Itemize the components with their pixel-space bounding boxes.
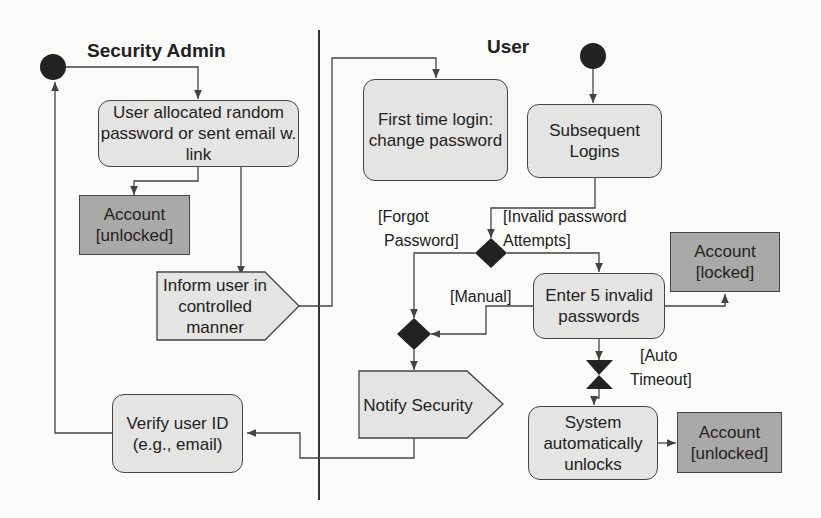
object-account-unlocked-user[interactable]: Account [unlocked] — [677, 412, 782, 473]
signal-notify-security[interactable]: Notify Security — [362, 372, 474, 438]
guard-invalid-line2: Attempts] — [503, 231, 571, 250]
activity-system-unlocks[interactable]: System automatically unlocks — [528, 406, 658, 480]
guard-forgot-line1: [Forgot — [378, 207, 429, 226]
lane-title-user: User — [487, 36, 529, 58]
activity-enter-invalid-passwords[interactable]: Enter 5 invalid passwords — [533, 273, 665, 339]
user-start-node — [580, 43, 606, 69]
admin-start-node — [40, 54, 66, 80]
guard-forgot-line2: Password] — [384, 231, 459, 250]
object-account-locked[interactable]: Account [locked] — [670, 232, 780, 292]
guard-manual: [Manual] — [450, 287, 511, 306]
activity-first-time-login[interactable]: First time login: change password — [363, 79, 508, 181]
object-account-unlocked-admin[interactable]: Account [unlocked] — [79, 195, 190, 255]
activity-allocate-password[interactable]: User allocated random password or sent e… — [98, 100, 299, 167]
activity-verify-user-id[interactable]: Verify user ID (e.g., email) — [112, 394, 243, 473]
timer-hourglass-icon — [586, 360, 613, 389]
activity-subsequent-logins[interactable]: Subsequent Logins — [527, 104, 662, 178]
lane-title-security-admin: Security Admin — [87, 40, 226, 62]
guard-auto-line1: [Auto — [640, 346, 677, 365]
signal-inform-user[interactable]: Inform user in controlled manner — [160, 273, 270, 339]
guard-invalid-line1: [Invalid password — [503, 207, 627, 226]
merge-diamond — [397, 318, 431, 350]
guard-auto-line2: Timeout] — [630, 370, 692, 389]
